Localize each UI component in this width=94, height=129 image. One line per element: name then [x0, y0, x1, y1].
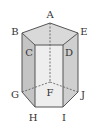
label-j: J [80, 89, 85, 100]
label-h: H [29, 112, 38, 123]
label-f: F [47, 87, 54, 98]
left-face [22, 33, 35, 107]
label-c: C [25, 47, 33, 58]
label-b: B [11, 26, 18, 37]
right-face [63, 33, 78, 107]
label-g: G [11, 89, 19, 100]
label-d: D [65, 47, 73, 58]
pentagonal-prism-diagram: A B C D E F G H I J [0, 0, 94, 129]
label-a: A [45, 9, 54, 20]
label-e: E [80, 26, 87, 37]
label-i: I [62, 112, 66, 123]
